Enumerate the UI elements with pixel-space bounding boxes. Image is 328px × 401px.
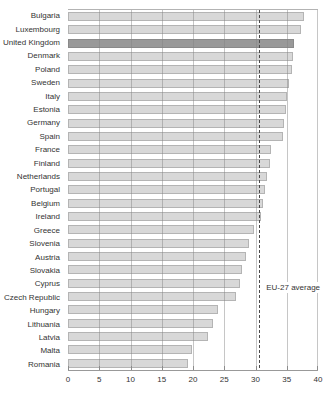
country-label: Slovakia <box>0 264 64 277</box>
x-tick-label: 0 <box>58 375 78 384</box>
axis-tick <box>162 366 163 370</box>
axis-tick <box>256 366 257 370</box>
country-label: Bulgaria <box>0 9 64 22</box>
country-label: Spain <box>0 130 64 143</box>
country-label: Portugal <box>0 183 64 196</box>
axis-tick <box>317 366 318 370</box>
country-label: Luxembourg <box>0 22 64 35</box>
country-label: Greece <box>0 224 64 237</box>
country-label: Czech Republic <box>0 291 64 304</box>
country-label: Lithuania <box>0 317 64 330</box>
country-label: Ireland <box>0 210 64 223</box>
country-label: Finland <box>0 156 64 169</box>
country-label: Denmark <box>0 49 64 62</box>
x-tick-label: 40 <box>308 375 328 384</box>
axis-tick <box>287 366 288 370</box>
axis-tick <box>99 366 100 370</box>
plot-area: EU-27 average <box>68 9 318 371</box>
country-label: Romania <box>0 358 64 371</box>
country-label: France <box>0 143 64 156</box>
x-tick-label: 30 <box>246 375 266 384</box>
country-label: Malta <box>0 344 64 357</box>
country-label: Poland <box>0 63 64 76</box>
x-tick-label: 25 <box>214 375 234 384</box>
country-label: Hungary <box>0 304 64 317</box>
x-tick-label: 5 <box>89 375 109 384</box>
country-label: Cyprus <box>0 277 64 290</box>
axis-tick <box>68 366 69 370</box>
country-label: Germany <box>0 116 64 129</box>
country-label: Italy <box>0 89 64 102</box>
x-tick-label: 15 <box>152 375 172 384</box>
country-label: Latvia <box>0 331 64 344</box>
country-label: Belgium <box>0 197 64 210</box>
x-tick-label: 35 <box>277 375 297 384</box>
country-label: United Kingdom <box>0 36 64 49</box>
country-label: Estonia <box>0 103 64 116</box>
bar-chart: BulgariaLuxembourgUnited KingdomDenmarkP… <box>0 0 328 401</box>
country-label: Netherlands <box>0 170 64 183</box>
country-label: Sweden <box>0 76 64 89</box>
category-labels: BulgariaLuxembourgUnited KingdomDenmarkP… <box>0 9 64 371</box>
axis-ticks-layer <box>68 10 318 370</box>
axis-tick <box>131 366 132 370</box>
country-label: Slovenia <box>0 237 64 250</box>
x-tick-label: 10 <box>121 375 141 384</box>
axis-tick <box>193 366 194 370</box>
axis-tick <box>224 366 225 370</box>
x-tick-label: 20 <box>183 375 203 384</box>
country-label: Austria <box>0 250 64 263</box>
